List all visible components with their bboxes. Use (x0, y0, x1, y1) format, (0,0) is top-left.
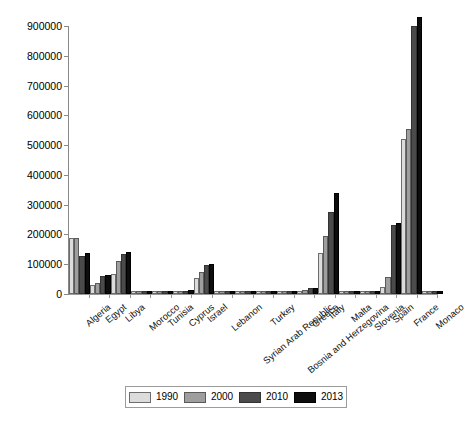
legend-swatch (239, 392, 261, 403)
y-axis-tick-label: 200000 (0, 229, 62, 240)
x-axis-tick-mark (254, 294, 275, 299)
x-axis-label-cell: France (397, 300, 418, 370)
bar-group (111, 26, 132, 294)
x-axis-label-cell: Monaco (418, 300, 439, 370)
legend-item: 1990 (129, 392, 178, 403)
x-axis-label-cell: Algeria (69, 300, 90, 370)
y-axis-tick-label: 600000 (0, 110, 62, 121)
y-axis-tick-label: 500000 (0, 140, 62, 151)
x-axis-label-cell: Italy (315, 300, 336, 370)
chart-legend: 1990200020102013 (125, 386, 347, 408)
bar-group (131, 26, 152, 294)
x-axis-tick-mark (69, 294, 90, 299)
x-axis-tick-mark (233, 294, 254, 299)
bar-group (297, 26, 318, 294)
legend-label: 2010 (266, 392, 288, 402)
x-axis-label-cell: Slovenia (356, 300, 377, 370)
bar-group (194, 26, 215, 294)
x-axis-ticks (69, 294, 438, 299)
x-axis-tick-mark (418, 294, 439, 299)
bar (437, 291, 442, 294)
y-axis-tick-label: 300000 (0, 199, 62, 210)
legend-label: 2000 (211, 392, 233, 402)
x-axis-label-cell: Spain (377, 300, 398, 370)
bar-group (152, 26, 173, 294)
x-axis-tick-mark (172, 294, 193, 299)
x-axis-tick-mark (356, 294, 377, 299)
x-axis-label-cell: Israel (192, 300, 213, 370)
x-axis-tick-mark (377, 294, 398, 299)
bar-group (277, 26, 298, 294)
x-axis-label-cell: Bosnia and Herzegovina (274, 300, 295, 370)
bar-group (69, 26, 90, 294)
legend-label: 1990 (156, 392, 178, 402)
bar-group (214, 26, 235, 294)
legend-item: 2013 (294, 392, 343, 403)
legend-swatch (294, 392, 316, 403)
y-axis-tick-label: 800000 (0, 51, 62, 62)
x-axis-tick-mark (192, 294, 213, 299)
x-axis-label-cell: Libya (110, 300, 131, 370)
bar-group (422, 26, 443, 294)
x-axis-label-cell: Syrian Arab Republic (233, 300, 254, 370)
bar-group (235, 26, 256, 294)
x-axis-label-cell: Morocco (131, 300, 152, 370)
bar-group (360, 26, 381, 294)
y-axis-tick-label: 900000 (0, 21, 62, 32)
y-axis-tick-label: 400000 (0, 170, 62, 181)
x-axis-label-cell: Greece (295, 300, 316, 370)
x-axis-label-cell: Lebanon (213, 300, 234, 370)
x-axis-tick-mark (213, 294, 234, 299)
bar-group (90, 26, 111, 294)
bar-group (318, 26, 339, 294)
x-axis-tick-mark (397, 294, 418, 299)
legend-swatch (184, 392, 206, 403)
x-axis-labels: AlgeriaEgyptLibyaMoroccoTunisiaCyprusIsr… (69, 300, 438, 370)
y-axis-tick-label: 0 (0, 289, 62, 300)
bar-groups (69, 26, 438, 294)
x-axis-tick-mark (131, 294, 152, 299)
legend-label: 2013 (321, 392, 343, 402)
y-axis-tick-label: 700000 (0, 80, 62, 91)
bar-group (401, 26, 422, 294)
x-axis-label-cell: Egypt (90, 300, 111, 370)
x-axis-tick-mark (315, 294, 336, 299)
bar-group (339, 26, 360, 294)
x-axis-label-cell: Turkey (254, 300, 275, 370)
legend-swatch (129, 392, 151, 403)
x-axis-tick-mark (295, 294, 316, 299)
legend-item: 2010 (239, 392, 288, 403)
x-axis-tick-mark (110, 294, 131, 299)
bar-group (256, 26, 277, 294)
x-axis-tick-mark (90, 294, 111, 299)
x-axis-tick-mark (151, 294, 172, 299)
y-axis-tick-label: 100000 (0, 259, 62, 270)
bar-group (173, 26, 194, 294)
x-axis-label-cell: Tunisia (151, 300, 172, 370)
x-axis-label-cell: Cyprus (172, 300, 193, 370)
x-axis-tick-mark (336, 294, 357, 299)
x-axis-tick-mark (274, 294, 295, 299)
legend-item: 2000 (184, 392, 233, 403)
bar-group (380, 26, 401, 294)
x-axis-label-cell: Malta (336, 300, 357, 370)
